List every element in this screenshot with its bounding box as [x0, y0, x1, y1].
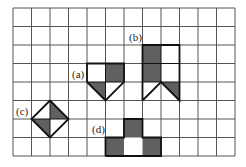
label-d: (d) — [92, 123, 105, 136]
figure-d-shaded — [143, 138, 162, 157]
label-c: (c) — [16, 105, 29, 118]
figure-d-shaded — [106, 138, 125, 157]
label-a: (a) — [72, 68, 85, 81]
grid-diagram: (a) (b) (c) (d) — [0, 0, 246, 167]
figure-d-shaded — [124, 119, 143, 138]
label-b: (b) — [129, 31, 142, 44]
figure-a-shaded — [106, 64, 125, 83]
